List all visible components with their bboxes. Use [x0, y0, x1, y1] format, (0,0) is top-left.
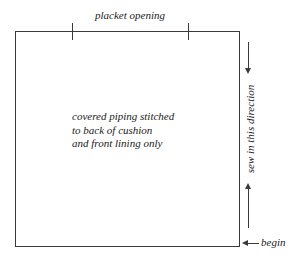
- begin-label: begin: [261, 236, 285, 249]
- direction-arrow-lower-line: [248, 189, 249, 228]
- begin-arrow-line: [247, 243, 259, 244]
- sewing-diagram: placket opening covered piping stitched …: [0, 0, 294, 267]
- placket-tick-left: [72, 23, 73, 40]
- piping-note-line-2: to back of cushion: [72, 124, 174, 138]
- piping-note-line-3: and front lining only: [72, 137, 174, 151]
- piping-note-line-1: covered piping stitched: [72, 110, 174, 124]
- direction-arrow-upper-line: [248, 42, 249, 70]
- placket-tick-right: [188, 23, 189, 40]
- begin-arrowhead-left-icon: [242, 240, 248, 246]
- direction-arrowhead-down-icon: [245, 68, 251, 74]
- placket-opening-label: placket opening: [0, 9, 260, 22]
- direction-arrowhead-up-icon: [245, 183, 251, 189]
- sew-direction-label: sew in this direction: [244, 85, 256, 174]
- piping-note: covered piping stitched to back of cushi…: [72, 110, 174, 151]
